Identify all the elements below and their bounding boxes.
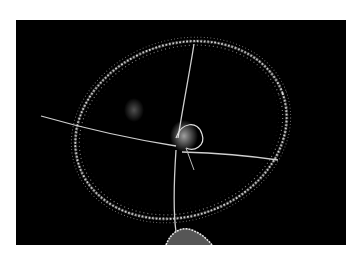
radial-canals: [41, 44, 278, 232]
gonad-smudge: [124, 98, 144, 122]
jellyfish-illustration: [16, 20, 346, 245]
lower-bell-fragment: [166, 229, 212, 245]
jellyfish-photo: Translucent jellyfish bell with four rad…: [16, 20, 346, 245]
